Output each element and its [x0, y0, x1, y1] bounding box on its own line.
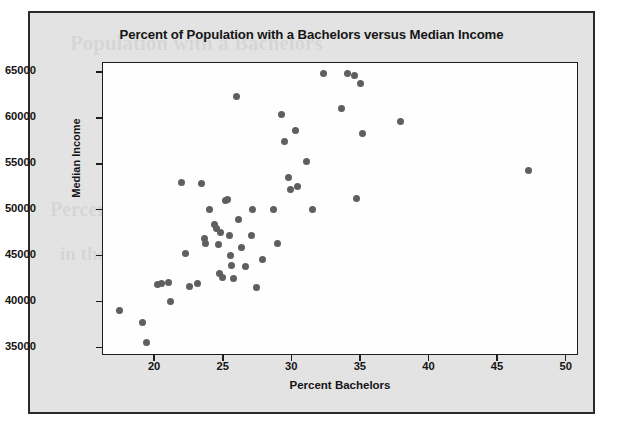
- data-point: [182, 250, 189, 257]
- data-point: [165, 279, 172, 286]
- x-tick-label: 20: [134, 360, 174, 372]
- data-point: [248, 232, 255, 239]
- y-axis-label: Median Income: [70, 78, 82, 238]
- data-point: [525, 167, 532, 174]
- data-point: [217, 229, 224, 236]
- data-point: [242, 263, 249, 270]
- y-tick-label: 35000: [5, 340, 36, 352]
- data-point: [281, 138, 288, 145]
- data-point: [186, 283, 193, 290]
- data-point: [303, 158, 310, 165]
- x-tick-mark: [222, 355, 224, 361]
- x-tick-label: 25: [203, 360, 243, 372]
- data-point: [116, 307, 123, 314]
- data-point: [167, 298, 174, 305]
- x-tick-label: 40: [408, 360, 448, 372]
- data-point: [353, 195, 360, 202]
- data-point: [294, 183, 301, 190]
- data-point: [351, 72, 358, 79]
- data-point: [249, 206, 256, 213]
- data-point: [215, 241, 222, 248]
- x-tick-mark: [496, 355, 498, 361]
- x-axis-label: Percent Bachelors: [102, 379, 578, 391]
- data-point: [139, 319, 146, 326]
- x-tick-label: 50: [546, 360, 586, 372]
- data-point: [253, 284, 260, 291]
- data-point: [233, 93, 240, 100]
- data-point: [278, 111, 285, 118]
- x-tick-label: 35: [340, 360, 380, 372]
- data-point: [235, 216, 242, 223]
- y-tick-label: 40000: [5, 294, 36, 306]
- plot-area: [102, 62, 578, 355]
- data-point: [357, 80, 364, 87]
- y-tick-label: 55000: [5, 156, 36, 168]
- x-tick-mark: [291, 355, 293, 361]
- x-tick-mark: [359, 355, 361, 361]
- data-point: [206, 206, 213, 213]
- data-point: [259, 256, 266, 263]
- data-point: [219, 274, 226, 281]
- data-point: [227, 252, 234, 259]
- x-tick-label: 45: [477, 360, 517, 372]
- data-point: [292, 127, 299, 134]
- data-point: [359, 130, 366, 137]
- y-tick-label: 60000: [5, 110, 36, 122]
- x-tick-mark: [565, 355, 567, 361]
- x-tick-mark: [428, 355, 430, 361]
- data-point: [230, 275, 237, 282]
- data-point: [143, 339, 150, 346]
- data-point: [397, 118, 404, 125]
- data-point: [309, 206, 316, 213]
- y-tick-label: 50000: [5, 202, 36, 214]
- data-point: [338, 105, 345, 112]
- x-tick-mark: [153, 355, 155, 361]
- data-point: [194, 280, 201, 287]
- data-point: [178, 179, 185, 186]
- chart-title: Percent of Population with a Bachelors v…: [28, 27, 595, 42]
- scatter-plot-figure: Population with a Bachelors in Percent w…: [0, 0, 620, 425]
- data-point: [228, 262, 235, 269]
- data-point: [344, 70, 351, 77]
- data-point: [224, 196, 231, 203]
- data-point: [198, 180, 205, 187]
- data-point: [320, 70, 327, 77]
- data-point: [285, 174, 292, 181]
- data-point: [274, 240, 281, 247]
- y-tick-label: 45000: [5, 248, 36, 260]
- x-tick-label: 30: [271, 360, 311, 372]
- data-point: [270, 206, 277, 213]
- data-point: [238, 244, 245, 251]
- data-point: [226, 232, 233, 239]
- data-point: [202, 240, 209, 247]
- y-tick-label: 65000: [5, 64, 36, 76]
